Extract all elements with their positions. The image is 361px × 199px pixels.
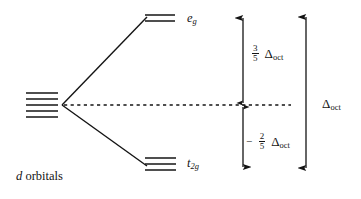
eg-label-subscript: g bbox=[193, 16, 197, 26]
lower-fraction-denominator: 5 bbox=[259, 141, 266, 151]
lower-delta-subscript: oct bbox=[280, 140, 290, 150]
lower-delta-symbol: Δoct bbox=[271, 135, 290, 150]
upper-delta-subscript: oct bbox=[273, 52, 283, 62]
t2g-level-group bbox=[145, 158, 176, 170]
lower-sign: − bbox=[246, 136, 252, 147]
eg-level-label: eg bbox=[187, 12, 197, 26]
total-delta-subscript: oct bbox=[330, 102, 340, 112]
lower-fraction: 2 5 bbox=[259, 132, 266, 152]
upper-fraction-denominator: 5 bbox=[252, 53, 259, 63]
eg-level-group bbox=[145, 15, 175, 21]
total-splitting-label: Δoct bbox=[322, 95, 341, 112]
upper-fraction: 3 5 bbox=[252, 44, 259, 64]
upper-fraction-numerator: 3 bbox=[252, 44, 259, 53]
total-delta-symbol: Δoct bbox=[322, 96, 341, 111]
figure-caption: d orbitals bbox=[16, 170, 63, 183]
upper-delta-glyph: Δ bbox=[265, 46, 273, 61]
lower-fraction-numerator: 2 bbox=[259, 132, 266, 141]
correlation-line-eg bbox=[62, 17, 147, 105]
lower-delta-glyph: Δ bbox=[271, 134, 279, 149]
t2g-label-subscript: 2g bbox=[190, 161, 199, 171]
d-orbital-level-group bbox=[26, 93, 58, 117]
upper-delta-symbol: Δoct bbox=[265, 47, 284, 62]
lower-splitting-label: − 2 5 Δoct bbox=[246, 132, 290, 152]
caption-text: orbitals bbox=[22, 169, 63, 183]
upper-splitting-label: 3 5 Δoct bbox=[252, 44, 283, 64]
correlation-line-t2g bbox=[62, 105, 147, 166]
crystal-field-splitting-diagram: eg t2g 3 5 Δoct − 2 5 Δoct Δoct d orbita… bbox=[0, 0, 361, 199]
t2g-level-label: t2g bbox=[187, 157, 199, 171]
